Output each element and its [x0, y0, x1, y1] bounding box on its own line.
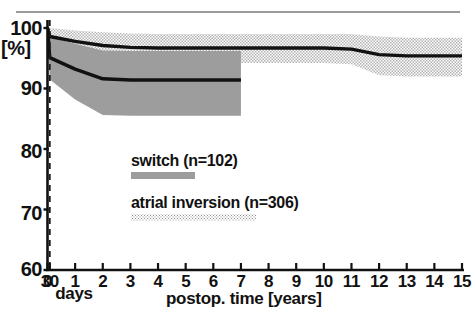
y-tick-label-100: 100: [0, 17, 42, 40]
x-axis-days-label: days: [44, 284, 104, 304]
x-tick-label-15: 15: [442, 272, 475, 292]
y-tick-label-90: 90: [0, 77, 42, 100]
x-axis-title: postop. time [years]: [166, 289, 322, 309]
legend-label-atrial-inversion: atrial inversion (n=306): [131, 194, 299, 212]
legend-swatch-switch: [131, 172, 195, 179]
legend-swatch-atrial-inversion: [131, 214, 256, 221]
y-tick-label-70: 70: [0, 202, 42, 225]
y-tick-label-80: 80: [0, 140, 42, 163]
legend-label-switch: switch (n=102): [131, 152, 238, 170]
figure-root: [%] 100 90 80 70 60 03012345678910111213…: [0, 0, 475, 316]
y-axis-unit-label: [%]: [1, 37, 31, 60]
